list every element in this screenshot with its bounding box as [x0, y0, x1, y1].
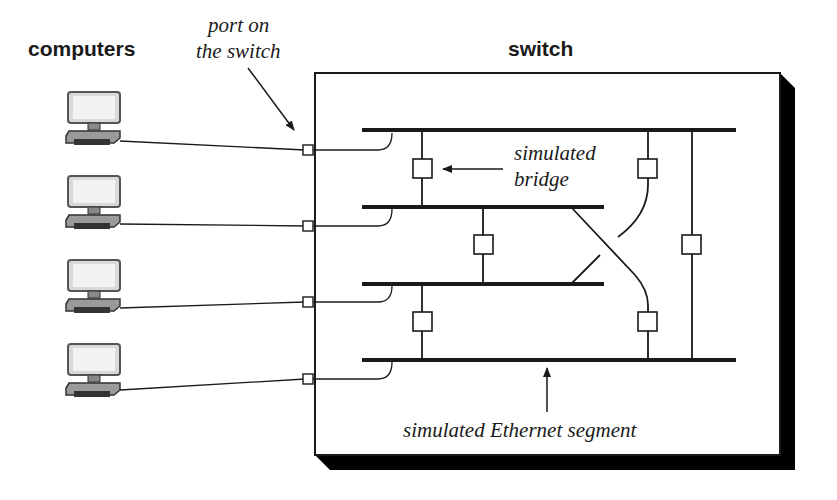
bridge-label-line2: bridge: [514, 167, 569, 191]
computer-4[interactable]: [66, 344, 305, 397]
cable-3: [120, 302, 305, 308]
computers-heading: computers: [28, 37, 135, 60]
bridge-icon: [638, 159, 657, 178]
bridge-icon: [413, 159, 432, 178]
switch-heading: switch: [508, 37, 573, 60]
cable-2: [120, 224, 305, 226]
bridge-icon: [413, 312, 432, 331]
computer-icon: [66, 92, 120, 145]
bridge-label-line1: simulated: [514, 141, 596, 165]
switch-box: [315, 73, 795, 470]
port-icon: [303, 221, 313, 231]
port-label-line1: port on: [206, 13, 269, 37]
cable-1: [120, 141, 305, 150]
port-arrow-icon: [248, 68, 294, 130]
computer-icon: [66, 176, 120, 229]
switch-diagram: computers switch port on the switch: [0, 0, 837, 500]
computer-1[interactable]: [66, 92, 305, 150]
segment-label-text: simulated Ethernet segment: [403, 418, 637, 442]
computer-icon: [66, 344, 120, 397]
port-label-line2: the switch: [196, 39, 281, 63]
port-label: port on the switch: [196, 13, 294, 130]
port-icon: [303, 297, 313, 307]
port-icon: [303, 374, 313, 384]
bridge-icon: [638, 312, 657, 331]
computer-icon: [66, 260, 120, 313]
computer-3[interactable]: [66, 260, 305, 313]
computer-2[interactable]: [66, 176, 305, 229]
bridge-icon: [474, 235, 493, 254]
bridge-icon: [682, 235, 701, 254]
port-icon: [303, 145, 313, 155]
cable-4: [120, 379, 305, 390]
